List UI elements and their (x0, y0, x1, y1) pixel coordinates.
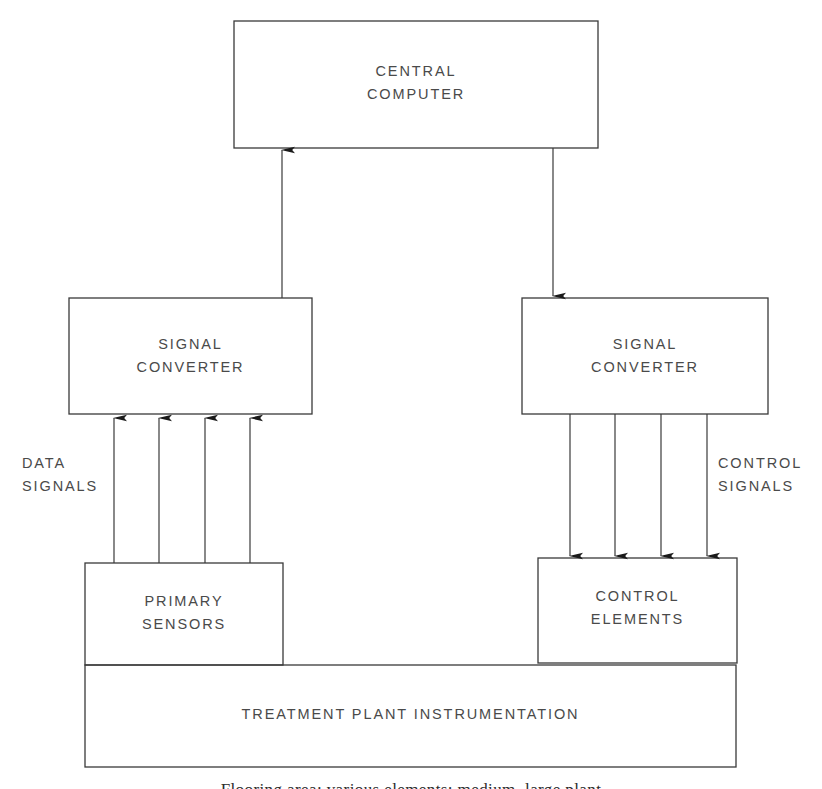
box-primary-sensors (85, 563, 283, 665)
label-control-signals: CONTROL SIGNALS (718, 452, 802, 498)
label-data-signals: DATA SIGNALS (22, 452, 98, 498)
diagram-lines (0, 0, 822, 789)
box-central-computer (234, 21, 598, 148)
figure-canvas: CENTRAL COMPUTER SIGNAL CONVERTER SIGNAL… (0, 0, 822, 789)
box-signal-converter-left (69, 298, 312, 414)
figure-caption: Flooring area; various elements; medium,… (0, 780, 822, 789)
box-signal-converter-right (522, 298, 768, 414)
box-control-elements (538, 558, 737, 663)
box-treatment-plant (85, 665, 736, 767)
